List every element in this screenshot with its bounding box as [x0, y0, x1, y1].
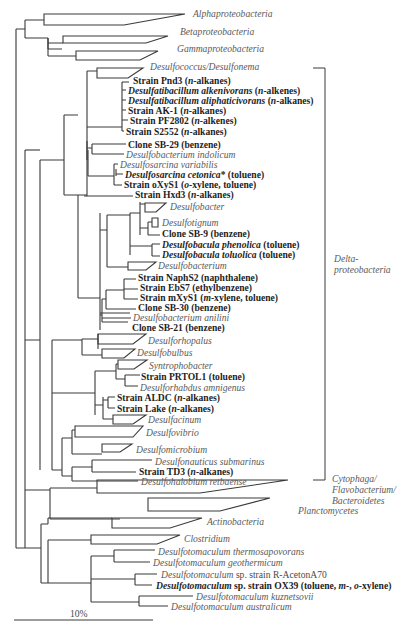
taxon-label: Desulfotomaculum sp. strain R-AcetonA70: [161, 569, 327, 580]
taxon-label: Desulfohalobium retbaense: [141, 476, 246, 487]
clade-actinobacteria: [112, 518, 202, 528]
taxon-label: Alphaproteobacteria: [193, 8, 273, 19]
clade-planctomycetes: [148, 498, 270, 511]
clade-betaproteobacteria: [63, 36, 168, 43]
taxon-label: Desulforhopalus: [148, 335, 212, 346]
clade-desulfacinum: [113, 415, 146, 424]
clade-desulfobulbus: [102, 349, 135, 358]
taxon-label: Desulfotomaculum sp. strain OX39 (toluen…: [156, 580, 391, 591]
taxon-label: Betaproteobacteria: [180, 26, 254, 37]
clade-syntrophobacter: [118, 360, 147, 369]
taxon-label: Desulfotomaculum thermosapovorans: [158, 546, 304, 557]
clade-desulfotignum: [152, 218, 158, 227]
taxon-label: Desulfomicrobium: [136, 444, 207, 455]
clade-desulfomicrobium: [102, 444, 132, 452]
clade-desulforhopalus: [98, 334, 146, 344]
taxon-label: Flavobacterium/: [332, 484, 396, 495]
taxon-label: Planctomycetes: [298, 505, 358, 516]
clade-clostridium: [91, 535, 180, 544]
taxon-label: Clone SB-21 (benzene): [132, 322, 225, 333]
taxon-label: Clone SB-9 (benzene): [162, 228, 250, 239]
taxon-label: Desulfobulbus: [137, 347, 192, 358]
taxon-label: Cytophaga/: [332, 473, 377, 484]
taxon-label: Gammaproteobacteria: [177, 43, 264, 54]
taxon-label: Desulfotomaculum geothermicum: [153, 557, 283, 568]
taxon-label: Strain PF2802 (n-alkenes): [130, 115, 237, 126]
clade-gammaproteobacteria: [76, 51, 158, 60]
delta-proteobacteria-label-line2: proteobacteria: [334, 264, 391, 275]
clade-desulfobacter: [145, 203, 166, 212]
taxon-label: Desulfococcus/Desulfonema: [150, 61, 259, 72]
taxon-label: Desulfobacula toluolica (toluene): [162, 249, 295, 260]
scale-bar-label: 10%: [70, 608, 88, 619]
taxon-label: Desulfotomaculum australicum: [171, 601, 292, 612]
taxon-label: Clostridium: [184, 533, 230, 544]
delta-proteobacteria-label-line1: Delta-: [334, 253, 359, 264]
taxon-label: Strain S2552 (n-alkanes): [126, 126, 227, 137]
taxon-label: Syntrophobacter: [149, 360, 213, 371]
taxon-label: Strain Hxd3 (n-alkanes): [135, 189, 234, 200]
clade-desulfovibrio: [75, 426, 143, 437]
taxon-label: Desulfobacter: [170, 201, 224, 212]
taxon-label: Desulfovibrio: [146, 427, 199, 438]
taxon-label: Strain Lake (n-alkanes): [117, 403, 214, 414]
taxon-label: Strain PRTOL1 (toluene): [141, 371, 245, 382]
taxon-label: Strain ALDC (n-alkanes): [117, 392, 220, 403]
taxon-label: Actinobacteria: [207, 516, 264, 527]
clade-desulfobacterium: [128, 262, 156, 270]
clade-alphaproteobacteria: [44, 14, 185, 25]
taxon-label: Desulfacinum: [148, 414, 201, 425]
taxon-label: Desulfobacterium: [158, 260, 227, 271]
taxon-label: Desulfotignum: [162, 217, 219, 228]
